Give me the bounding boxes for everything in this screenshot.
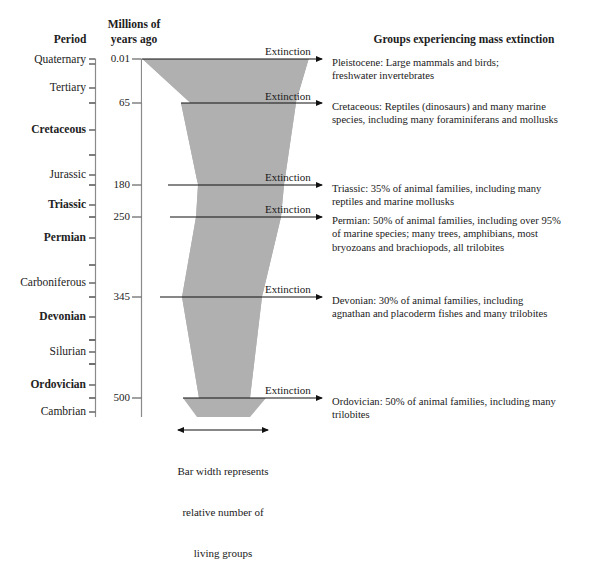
period-label: Cretaceous — [0, 123, 86, 137]
year-label: 0.01 — [96, 52, 130, 65]
period-label: Triassic — [0, 198, 86, 212]
description-line: agnathan and placoderm fishes and many t… — [332, 307, 600, 320]
extinction-description: Ordovician: 50% of animal families, incl… — [332, 395, 600, 422]
description-line: Ordovician: 50% of animal families, incl… — [332, 395, 600, 408]
extinction-label: Extinction — [265, 203, 311, 216]
description-line: of marine species; many trees, amphibian… — [332, 227, 600, 240]
header-millions-line2: years ago — [92, 33, 176, 47]
description-line: Cretaceous: Reptiles (dinosaurs) and man… — [332, 100, 600, 113]
year-label: 180 — [96, 178, 130, 191]
description-line: reptiles and marine mollusks — [332, 195, 600, 208]
period-label: Permian — [0, 231, 86, 245]
caption-line-3: living groups — [138, 547, 308, 561]
period-label: Cambrian — [0, 405, 86, 419]
description-line: Triassic: 35% of animal families, includ… — [332, 182, 600, 195]
extinction-label: Extinction — [265, 384, 311, 397]
header-groups: Groups experiencing mass extinction — [330, 33, 598, 47]
period-label: Jurassic — [0, 168, 86, 182]
extinction-description: Permian: 50% of animal families, includi… — [332, 214, 600, 254]
period-label: Tertiary — [0, 81, 86, 95]
diversity-bar — [142, 59, 314, 417]
extinction-label: Extinction — [265, 45, 311, 58]
period-label: Carboniferous — [0, 276, 86, 290]
extinction-description: Cretaceous: Reptiles (dinosaurs) and man… — [332, 100, 600, 127]
period-label: Silurian — [0, 345, 86, 359]
extinction-label: Extinction — [265, 283, 311, 296]
description-line: bryozoans and brachiopods, all trilobite… — [332, 241, 600, 254]
extinction-label: Extinction — [265, 171, 311, 184]
description-line: freshwater invertebrates — [332, 69, 600, 82]
description-line: trilobites — [332, 408, 600, 421]
extinction-description: Devonian: 30% of animal families, includ… — [332, 294, 600, 321]
year-label: 345 — [96, 290, 130, 303]
bar-width-caption: Bar width represents relative number of … — [138, 437, 308, 563]
year-label: 65 — [96, 96, 130, 109]
caption-line-2: relative number of — [138, 506, 308, 520]
description-line: Devonian: 30% of animal families, includ… — [332, 294, 600, 307]
extinction-description: Pleistocene: Large mammals and birds;fre… — [332, 56, 600, 83]
extinction-description: Triassic: 35% of animal families, includ… — [332, 182, 600, 209]
description-line: Permian: 50% of animal families, includi… — [332, 214, 600, 227]
caption-line-1: Bar width represents — [138, 465, 308, 479]
year-label: 250 — [96, 210, 130, 223]
extinction-label: Extinction — [265, 90, 311, 103]
period-label: Quaternary — [0, 53, 86, 67]
period-label: Devonian — [0, 310, 86, 324]
time-axis — [132, 59, 142, 417]
period-axis — [89, 59, 96, 417]
year-label: 500 — [96, 391, 130, 404]
description-line: species, including many foraminiferans a… — [332, 113, 600, 126]
period-label: Ordovician — [0, 378, 86, 392]
description-line: Pleistocene: Large mammals and birds; — [332, 56, 600, 69]
header-millions-line1: Millions of — [92, 18, 176, 32]
